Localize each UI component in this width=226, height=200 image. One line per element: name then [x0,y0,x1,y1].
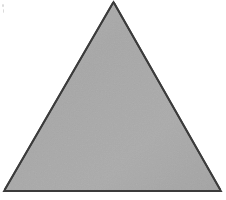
scan-speck-b [3,9,4,13]
figure-canvas [0,0,226,200]
scan-speck-a [2,4,4,7]
triangle-diagram-svg [0,0,226,200]
